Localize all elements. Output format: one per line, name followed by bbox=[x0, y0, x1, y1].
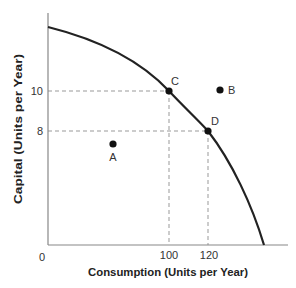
point-b bbox=[216, 86, 223, 93]
point-c bbox=[165, 87, 172, 94]
y-axis-title: Capital (Units per Year) bbox=[12, 54, 24, 204]
point-d bbox=[204, 127, 211, 134]
y-tick-10: 10 bbox=[31, 85, 43, 97]
reference-lines bbox=[48, 91, 208, 245]
ppf-chart: A B C D 10 8 0 100 120 Consumption (Unit… bbox=[0, 0, 296, 288]
label-d: D bbox=[211, 115, 219, 127]
x-axis-title: Consumption (Units per Year) bbox=[88, 266, 248, 278]
label-b: B bbox=[228, 84, 235, 96]
ppf-curve bbox=[48, 27, 264, 245]
label-c: C bbox=[171, 75, 179, 87]
point-a bbox=[109, 140, 116, 147]
x-tick-120: 120 bbox=[200, 249, 218, 261]
origin-label: 0 bbox=[39, 251, 45, 263]
y-tick-8: 8 bbox=[37, 125, 43, 137]
label-a: A bbox=[109, 151, 117, 163]
x-tick-100: 100 bbox=[160, 249, 178, 261]
